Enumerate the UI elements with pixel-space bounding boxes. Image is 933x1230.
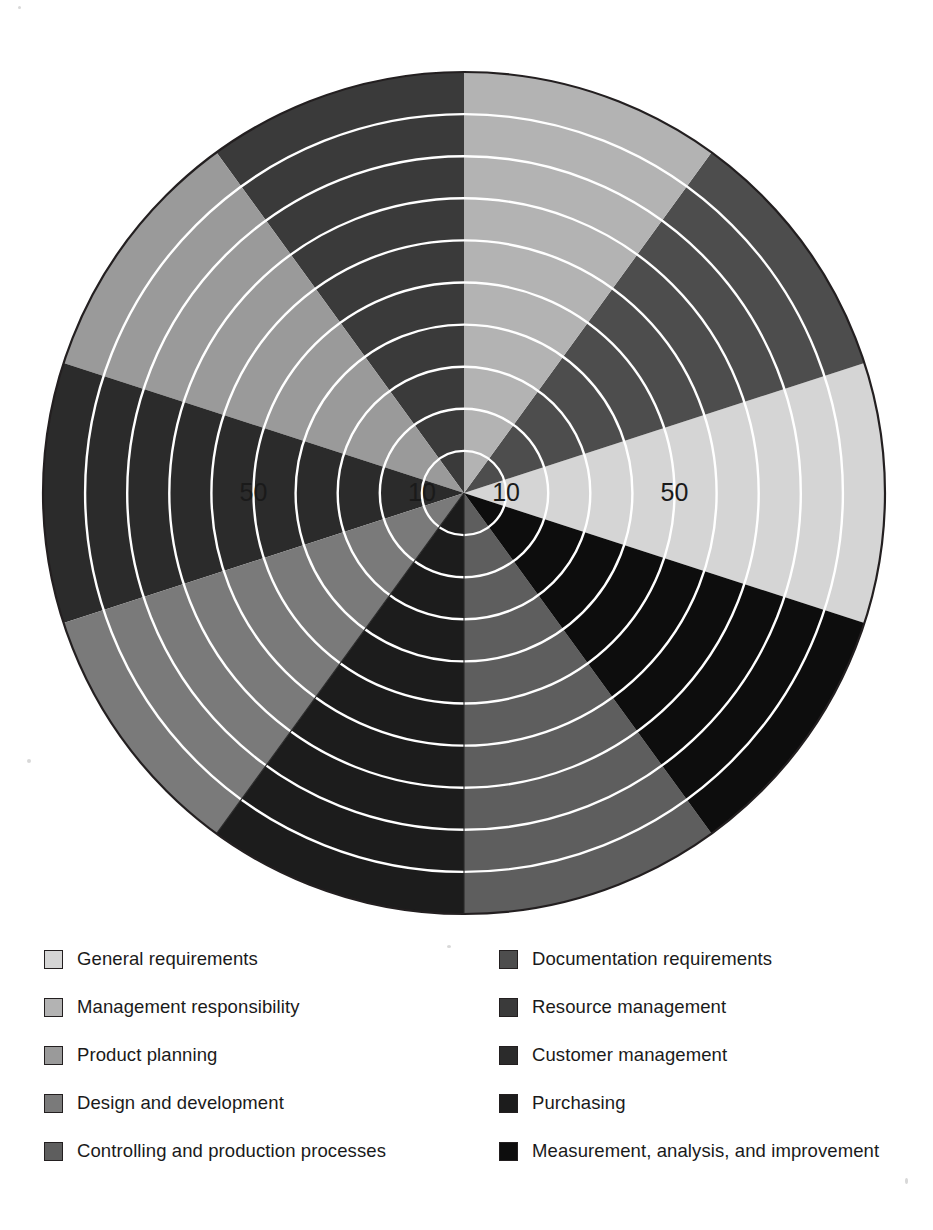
legend-item-label: Design and development: [77, 1094, 284, 1113]
chart-legend: General requirements Documentation requi…: [0, 935, 933, 1185]
legend-item-label: Measurement, analysis, and improvement: [532, 1142, 879, 1161]
legend-item-label: Product planning: [77, 1046, 217, 1065]
scan-speck: [447, 945, 451, 948]
legend-swatch-icon: [499, 1046, 518, 1065]
legend-item-label: Customer management: [532, 1046, 727, 1065]
legend-swatch-icon: [44, 950, 63, 969]
legend-item-general-requirements[interactable]: General requirements: [44, 935, 499, 983]
radial-tick-label: 50: [661, 478, 689, 506]
legend-item-label: Purchasing: [532, 1094, 626, 1113]
legend-item-purchasing[interactable]: Purchasing: [499, 1079, 933, 1127]
legend-swatch-icon: [499, 950, 518, 969]
legend-swatch-icon: [499, 1142, 518, 1161]
page-root: 50101050 General requirements Documentat…: [0, 0, 933, 1230]
scan-speck: [18, 6, 21, 9]
scan-speck: [27, 759, 31, 763]
scan-speck: [905, 1178, 908, 1184]
legend-item-label: General requirements: [77, 950, 258, 969]
legend-item-design-and-development[interactable]: Design and development: [44, 1079, 499, 1127]
radial-tick-label: 10: [492, 478, 520, 506]
radial-tick-label: 10: [408, 478, 436, 506]
legend-swatch-icon: [499, 998, 518, 1017]
legend-swatch-icon: [499, 1094, 518, 1113]
legend-swatch-icon: [44, 1142, 63, 1161]
legend-item-measurement-analysis-and-improvement[interactable]: Measurement, analysis, and improvement: [499, 1127, 933, 1175]
legend-item-management-responsibility[interactable]: Management responsibility: [44, 983, 499, 1031]
legend-item-documentation-requirements[interactable]: Documentation requirements: [499, 935, 933, 983]
legend-item-label: Controlling and production processes: [77, 1142, 386, 1161]
legend-item-resource-management[interactable]: Resource management: [499, 983, 933, 1031]
legend-item-label: Management responsibility: [77, 998, 300, 1017]
radial-tick-label: 50: [240, 478, 268, 506]
legend-swatch-icon: [44, 1046, 63, 1065]
legend-item-controlling-and-production-processes[interactable]: Controlling and production processes: [44, 1127, 499, 1175]
polar-chart: 50101050: [0, 0, 933, 930]
legend-swatch-icon: [44, 1094, 63, 1113]
legend-swatch-icon: [44, 998, 63, 1017]
legend-item-label: Resource management: [532, 998, 726, 1017]
legend-item-product-planning[interactable]: Product planning: [44, 1031, 499, 1079]
polar-chart-svg: 50101050: [0, 0, 933, 930]
legend-item-customer-management[interactable]: Customer management: [499, 1031, 933, 1079]
legend-item-label: Documentation requirements: [532, 950, 772, 969]
